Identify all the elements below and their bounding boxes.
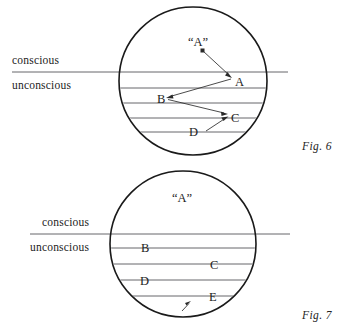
fig7-unconscious-label: unconscious [30,242,89,254]
diagram-canvas [0,0,350,331]
fig7-strata-group [105,248,262,296]
fig6-marker-label-d: D [189,126,198,139]
fig6-arrow-b-to-c [168,100,228,117]
fig7-marker-label-c: C [210,259,218,272]
fig7-conscious-label: conscious [42,217,89,229]
fig7-caption: Fig. 7 [302,310,332,322]
fig6-marker-label-b: B [157,93,165,106]
fig7-marker-label-quoted-a: “A” [172,192,192,205]
fig6-marker-label-a: A [235,76,244,89]
fig6-unconscious-label: unconscious [12,80,71,92]
fig6-arrow-quoted-a-to-a [201,49,233,79]
fig6-caption: Fig. 6 [302,141,332,153]
fig7-arrow-upward-from-base [182,301,191,311]
fig6-marker-label-c: C [231,112,239,125]
fig7-marker-label-e: E [209,291,217,304]
fig6-arrow-d-to-c [206,117,229,132]
fig6-marker-label-quoted-a: “A” [188,36,208,49]
fig6-arrow-a-to-b [166,79,231,99]
fig7-marker-label-b: B [141,242,149,255]
fig6-conscious-label: conscious [12,55,59,67]
figure-plate: conscious unconscious “A” A B C D Fig. 6… [0,0,350,331]
fig7-marker-label-d: D [140,275,149,288]
